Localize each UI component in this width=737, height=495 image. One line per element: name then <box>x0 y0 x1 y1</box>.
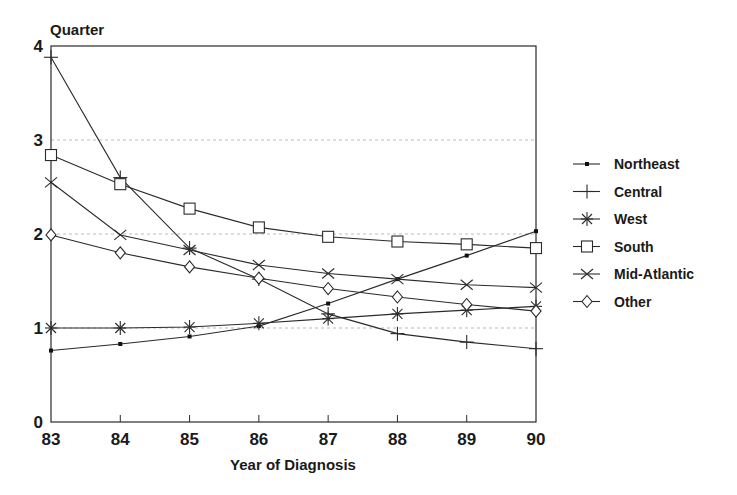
legend-label: South <box>614 239 654 255</box>
x-tick-label: 89 <box>457 430 476 449</box>
legend-item: Northeast <box>573 156 680 172</box>
x-tick-label: 90 <box>527 430 546 449</box>
series-lines <box>44 50 543 355</box>
legend-item: South <box>573 239 654 255</box>
y-axis-title: Quarter <box>50 21 104 38</box>
y-axis: 01234 <box>34 37 44 432</box>
y-tick-label: 2 <box>34 225 43 244</box>
legend-item: West <box>573 211 648 227</box>
x-tick-label: 84 <box>111 430 130 449</box>
y-tick-label: 4 <box>34 37 44 56</box>
gridlines <box>51 140 536 328</box>
x-tick-label: 83 <box>42 430 61 449</box>
legend-label: West <box>614 211 648 227</box>
legend-label: Northeast <box>614 156 680 172</box>
y-tick-label: 3 <box>34 131 43 150</box>
line-chart: 01234 8384858687888990 Quarter Year of D… <box>0 0 737 495</box>
legend-label: Other <box>614 294 652 310</box>
legend-label: Central <box>614 184 662 200</box>
series-south <box>46 150 542 254</box>
x-axis-title: Year of Diagnosis <box>230 456 356 473</box>
series-mid-atlantic <box>45 177 542 292</box>
legend-item: Other <box>573 294 652 310</box>
legend-item: Mid-Atlantic <box>573 266 694 282</box>
y-tick-label: 1 <box>34 319 43 338</box>
x-tick-label: 87 <box>319 430 338 449</box>
x-tick-label: 86 <box>249 430 268 449</box>
legend-label: Mid-Atlantic <box>614 266 694 282</box>
x-tick-label: 88 <box>388 430 407 449</box>
legend: NortheastCentralWestSouthMid-AtlanticOth… <box>573 156 694 310</box>
x-axis: 8384858687888990 <box>42 415 546 449</box>
x-tick-label: 85 <box>180 430 199 449</box>
legend-item: Central <box>573 184 662 200</box>
